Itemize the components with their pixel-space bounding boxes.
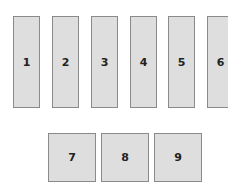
tall-box-5: 5	[168, 16, 195, 108]
tall-box-3: 3	[91, 16, 118, 108]
tall-box-1: 1	[13, 16, 40, 108]
square-box-7: 7	[48, 133, 96, 182]
square-box-8: 8	[101, 133, 149, 182]
tall-box-6: 6	[207, 16, 228, 108]
tall-box-2: 2	[52, 16, 79, 108]
square-box-9: 9	[154, 133, 202, 182]
tall-box-4: 4	[130, 16, 157, 108]
